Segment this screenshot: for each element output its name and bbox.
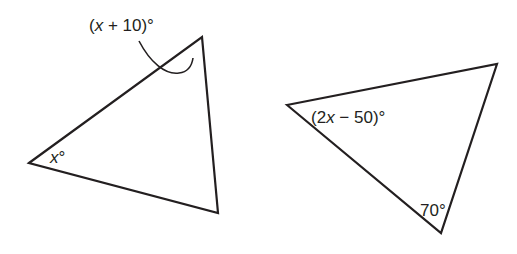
angle-label-left: x° <box>49 148 65 167</box>
angle-label-top: (x + 10)° <box>89 16 154 35</box>
triangle-right: (2x − 50)° 70° <box>287 64 497 233</box>
triangle-left-outline <box>29 37 218 213</box>
triangle-right-outline <box>287 64 497 233</box>
angle-label-bottom: 70° <box>420 201 446 220</box>
angle-arc-top <box>139 41 193 73</box>
triangle-left: (x + 10)° x° <box>29 16 218 213</box>
diagram-canvas: (x + 10)° x° (2x − 50)° 70° <box>0 0 517 254</box>
angle-label-left: (2x − 50)° <box>311 108 385 127</box>
